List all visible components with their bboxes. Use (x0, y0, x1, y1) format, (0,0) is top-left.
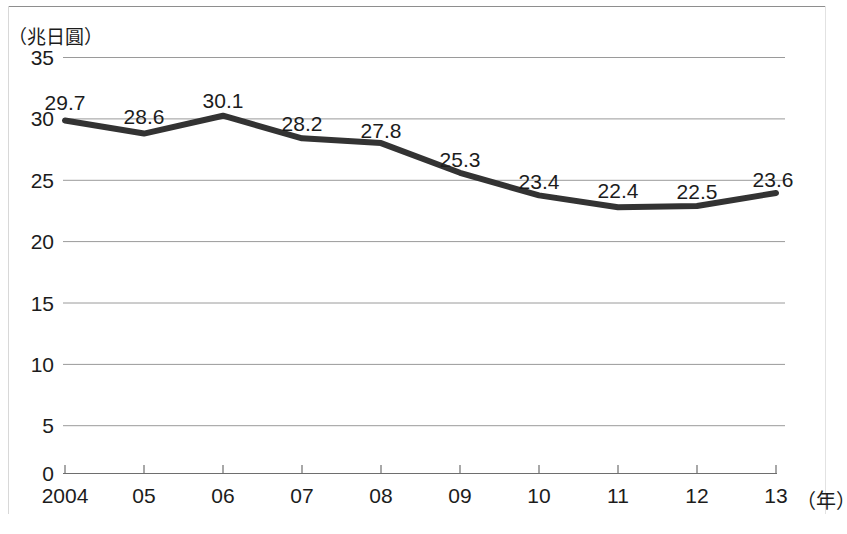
x-tick-label-06: 06 (183, 484, 263, 508)
x-tick-label-2004: 2004 (25, 484, 105, 508)
y-tick-label-5: 5 (8, 414, 54, 438)
x-tick-label-05: 05 (104, 484, 184, 508)
x-tick-label-09: 09 (420, 484, 500, 508)
x-tick-label-11: 11 (578, 484, 658, 508)
data-label-10: 23.4 (499, 170, 579, 194)
y-tick-label-20: 20 (8, 230, 54, 254)
data-label-12: 22.5 (657, 180, 737, 204)
data-label-11: 22.4 (578, 179, 658, 203)
data-label-07: 28.2 (262, 112, 342, 136)
data-label-08: 27.8 (341, 119, 421, 143)
x-tick-label-08: 08 (341, 484, 421, 508)
x-tick-label-10: 10 (499, 484, 579, 508)
y-tick-label-25: 25 (8, 169, 54, 193)
y-tick-label-10: 10 (8, 353, 54, 377)
data-label-05: 28.6 (104, 105, 184, 129)
x-tick-label-07: 07 (262, 484, 342, 508)
y-tick-label-15: 15 (8, 292, 54, 316)
x-axis-ticks (65, 465, 776, 474)
x-tick-label-12: 12 (657, 484, 737, 508)
data-label-2004: 29.7 (20, 91, 110, 115)
x-axis-unit-label: （年） (796, 485, 847, 514)
data-label-13: 23.6 (733, 168, 813, 192)
data-label-06: 30.1 (183, 89, 263, 113)
y-tick-label-35: 35 (8, 46, 54, 70)
y-tick-label-0: 0 (8, 462, 54, 486)
data-label-09: 25.3 (420, 148, 500, 172)
